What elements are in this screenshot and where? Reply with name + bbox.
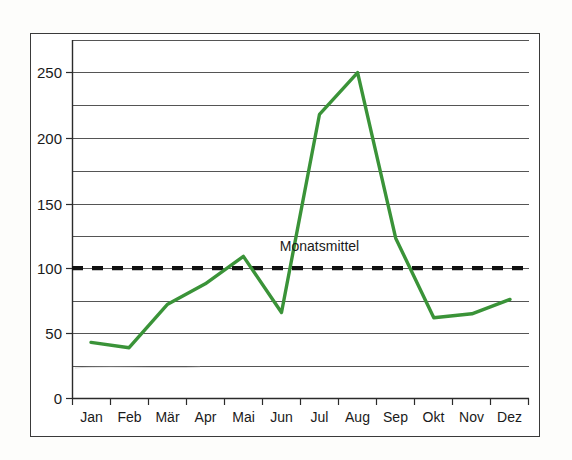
- x-tick-label-apr: Apr: [195, 409, 217, 425]
- line-chart: 250 200 150 100 50 0 Jan Feb Mär Apr Mai…: [0, 0, 572, 460]
- x-tick-label-jan: Jan: [80, 409, 103, 425]
- scan-smudge: [75, 367, 200, 368]
- y-tick-label-200: 200: [37, 130, 62, 147]
- y-tick-marks: [66, 73, 72, 399]
- gridlines-group: [72, 41, 529, 367]
- x-tick-label-mai: Mai: [232, 409, 255, 425]
- y-tick-label-100: 100: [37, 260, 62, 277]
- y-tick-label-50: 50: [45, 325, 62, 342]
- x-tick-label-feb: Feb: [117, 409, 141, 425]
- y-tick-label-0: 0: [54, 390, 62, 407]
- monatswerte-series-line: [91, 73, 510, 348]
- x-tick-label-sep: Sep: [383, 409, 408, 425]
- monatsmittel-annotation-label: Monatsmittel: [280, 238, 359, 254]
- x-tick-labels: Jan Feb Mär Apr Mai Jun Jul Aug Sep Okt …: [80, 409, 522, 425]
- y-tick-label-150: 150: [37, 196, 62, 213]
- y-tick-label-250: 250: [37, 64, 62, 81]
- y-tick-labels: 250 200 150 100 50 0: [37, 64, 62, 407]
- x-tick-label-aug: Aug: [345, 409, 370, 425]
- x-tick-label-okt: Okt: [423, 409, 445, 425]
- x-tick-label-jul: Jul: [311, 409, 329, 425]
- x-tick-label-dez: Dez: [497, 409, 522, 425]
- x-tick-label-mar: Mär: [155, 409, 179, 425]
- x-tick-label-jun: Jun: [270, 409, 293, 425]
- x-tick-label-nov: Nov: [459, 409, 484, 425]
